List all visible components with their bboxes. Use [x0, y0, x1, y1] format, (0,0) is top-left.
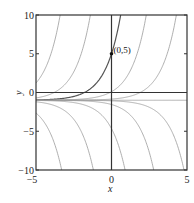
y-tick-label: −5 — [23, 126, 34, 137]
y-tick-label: 10 — [24, 10, 34, 21]
solution-curves-chart: −10−50510−505 (0,5) x y — [0, 0, 194, 203]
x-axis-label: x — [107, 183, 113, 194]
y-tick-label: 5 — [29, 48, 34, 59]
annotations: (0,5) — [110, 45, 131, 56]
x-tick-label: −5 — [27, 174, 38, 185]
x-tick-label: 5 — [185, 174, 190, 185]
axis-ticks: −10−50510−505 — [18, 10, 189, 186]
y-tick-label: 0 — [29, 87, 34, 98]
y-axis-label: y — [13, 90, 24, 96]
point-label: (0,5) — [114, 45, 131, 55]
